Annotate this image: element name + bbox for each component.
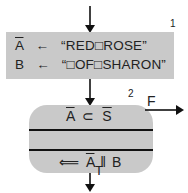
value-a: “RED□ROSE” [61,38,147,53]
var-b: B [15,57,24,72]
var-a: A [86,154,95,170]
assign-left-icon: ⟸ [59,154,79,170]
false-exit-arrow-icon [145,104,185,116]
subset-op: ⊂ [82,108,94,124]
value-b: “□OF□SHARON” [62,57,166,72]
assignment-row-a: A ← “RED□ROSE” [15,38,147,53]
box2-number: 2 [128,88,134,99]
box1-number: 1 [170,18,176,29]
true-label: T [95,163,103,178]
var-a: A [15,38,23,53]
decision-box: A ⊂ S ⟸ A ‖ B [29,105,153,173]
assignment-box: A ← “RED□ROSE” B ← “□OF□SHARON” [6,32,174,79]
operation-bottom: ⟸ A ‖ B [59,154,121,170]
connector-arrow-icon [83,79,97,107]
divider-top [29,129,153,131]
assign-arrow-icon: ← [35,38,49,53]
var-s: S [102,108,111,124]
divider-bottom [29,149,153,151]
entry-arrow-icon [83,6,97,34]
condition-top: A ⊂ S [66,108,112,124]
assign-arrow-icon: ← [36,57,50,72]
var-b: B [112,154,121,170]
var-a: A [66,108,75,124]
assignment-row-b: B ← “□OF□SHARON” [15,57,166,72]
